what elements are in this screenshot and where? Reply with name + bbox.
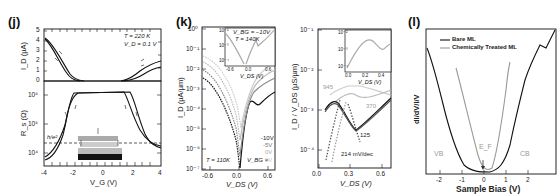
kl-inset-xtick: -0.6 [226,67,234,72]
kl-inset-xtick: 0.0 [245,67,251,72]
l-xlabel: Sample Bias (V) [456,184,520,194]
kr-inset-ytick: 10⁻⁴ [338,64,348,69]
kr-xlabel: V_DS (V) [340,179,372,188]
l-xtick: -2 [436,176,442,183]
kr-ylabel: I_D / V_DS (µS/µm) [290,63,299,130]
kr-xtick: 0.3 [344,170,353,177]
kr-ann-370: 370 [366,103,376,109]
j-top-ytick: 5 [36,26,40,33]
j-top-ytick: 2 [36,56,40,63]
j-bot-ylabel: R_s (Ω) [19,110,28,136]
kl-ytick: 10⁻² [186,65,199,73]
kr-inset-ytick: 10⁻² [338,30,348,35]
j-top-ytick: 1 [36,66,40,73]
kr-inset-ytick: 10⁻³ [338,47,348,52]
kl-legend-item: -5V [263,142,272,148]
j-xlabel: V_G (V) [90,178,117,187]
j-xtick: -2 [70,169,76,176]
kl-ytick: 10⁻⁶ [186,145,200,153]
kl-ytick: 10⁰ [188,25,198,33]
kr-ann-125: 125 [360,132,370,138]
kl-ytick: 10⁻⁴ [186,105,200,113]
kl-ylabel: I_D (µA/µm) [176,77,185,118]
kl-ytick: 10⁻¹ [186,45,199,53]
j-bot-ytick: 10⁴ [28,149,38,156]
j-top-ytick: 3 [36,46,40,53]
kr-ann-945: 945 [323,84,333,90]
l-ef-label: E_F [479,143,492,150]
kr-ytick: 10⁻⁴ [300,146,314,154]
kl-inset-ytick: 10⁻⁴ [219,58,229,63]
j-bot-ytick: 10⁶ [28,91,38,98]
kl-xtick: 0.6 [263,172,272,179]
panel-tag-l: (l) [408,14,420,29]
panel-tag-j: (j) [8,14,20,29]
kr-ytick: 10⁻² [300,66,313,74]
l-legend-treated: Chemically Treated ML [452,44,517,50]
figure-graphics [0,0,560,196]
kl-legend-item: 5V [265,157,272,163]
panel-l-frame [426,29,556,174]
kl-xlabel: V_DS (V) [226,180,258,189]
kr-inset-xtick: 0.0 [345,73,351,78]
j-xtick: -4 [41,169,47,176]
j-bot-ytick: 10⁵ [28,120,38,127]
kl-inset-temp: T = 140K [235,36,260,42]
kl-inset-xlabel: V_DS (V) [240,73,263,79]
l-ylabel: dI/dV/I/V [412,94,421,124]
j-temp-annotation: T = 220 K [124,33,150,39]
l-vb-label: VB [434,150,443,157]
l-xtick: 1 [504,176,508,183]
l-cb-label: CB [520,150,530,157]
l-xtick: 0 [482,176,486,183]
kr-xtick: 0.6 [376,170,385,177]
j-top-ylabel: I_D (µA) [19,42,28,70]
j-xtick: 4 [158,169,162,176]
kl-legend-item: -10V [261,135,274,141]
j-xtick: 0 [101,169,105,176]
kl-temp: T = 110K [206,157,230,163]
j-xtick: 2 [131,169,135,176]
l-legend-bare: Bare ML [452,36,476,42]
panel-k-right-inset-frame [345,30,391,72]
kr-inset-xtick: 0.4 [378,73,384,78]
kr-ann-slope: 214 mV/dec [341,151,373,157]
kl-ytick: 10⁻⁵ [186,125,200,133]
kl-inset-ytick: 10⁻² [219,28,229,33]
kl-inset-xtick: 0.6 [265,67,271,72]
kl-inset-vbg: V_BG = −10V [233,29,270,35]
kl-legend-item: 0V [265,149,272,155]
kl-ytick: 10⁻³ [186,85,199,93]
j-vd-annotation: V_D = 0.1 V [124,41,157,47]
device-schematic-inset [78,128,122,160]
j-top-ytick: 4 [36,36,40,43]
j-top-ytick: 0 [36,76,40,83]
kl-xtick: -0.6 [202,172,213,179]
j-he2-label: h/e² [47,134,57,140]
kr-xtick: 0.0 [312,170,321,177]
kr-inset-xtick: 0.2 [362,73,368,78]
kr-inset-xlabel: V_DS (V) [358,79,381,85]
panel-l-curves [427,30,555,172]
kl-ytick: 10⁻⁷ [186,165,200,173]
kr-ytick: 10⁻¹ [300,26,313,34]
kr-ytick: 10⁻³ [300,106,313,114]
l-xtick: 2 [526,176,530,183]
kl-xtick: 0.0 [232,172,241,179]
l-xtick: -1 [459,176,465,183]
kl-inset-ytick: 10⁻³ [219,43,229,48]
